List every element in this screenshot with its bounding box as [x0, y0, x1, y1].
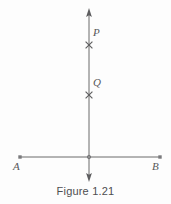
geometry-diagram	[0, 0, 171, 204]
point-label-q: Q	[93, 77, 101, 88]
figure-container: P Q A B Figure 1.21	[0, 0, 171, 204]
endpoint-marker-a	[18, 155, 21, 158]
endpoint-label-a: A	[13, 161, 20, 172]
point-label-p: P	[93, 27, 100, 38]
endpoint-marker-b	[158, 155, 161, 158]
endpoint-label-b: B	[152, 161, 159, 172]
figure-caption: Figure 1.21	[0, 185, 171, 197]
